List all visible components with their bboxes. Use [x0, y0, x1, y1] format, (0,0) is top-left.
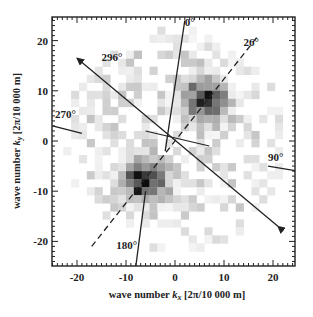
x-tick-label: 0 — [172, 271, 178, 283]
x-tick-label: 10 — [219, 271, 231, 283]
x-axis-title: wave number kx [2π/10 000 m] — [109, 289, 245, 302]
x-tick-label: -10 — [119, 271, 134, 283]
y-tick-label: 20 — [37, 35, 49, 47]
direction-label-270: 270° — [55, 108, 76, 120]
y-tick-label: 0 — [43, 135, 49, 147]
direction-label-90: 90° — [268, 151, 283, 163]
x-tick-label: 20 — [268, 271, 280, 283]
direction-label-0: 0° — [185, 16, 195, 28]
x-tick-label: -20 — [70, 271, 85, 283]
direction-label-26: 26° — [244, 36, 259, 48]
wave-spectrum-chart: -20-1001020-20-1001020 0°26°90°180°270°2… — [0, 0, 313, 317]
direction-label-180: 180° — [116, 239, 137, 251]
y-tick-label: -20 — [33, 235, 48, 247]
y-axis-title: wave number ky [2π/10 000 m] — [11, 73, 24, 209]
y-tick-label: 10 — [37, 85, 49, 97]
direction-label-296: 296° — [102, 51, 123, 63]
y-tick-label: -10 — [33, 185, 48, 197]
